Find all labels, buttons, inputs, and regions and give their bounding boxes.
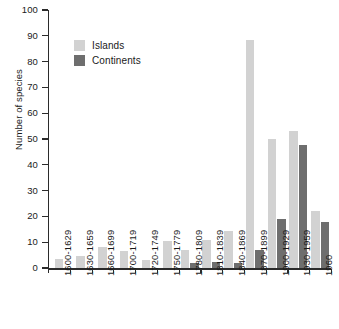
bar-islands bbox=[55, 259, 64, 268]
x-tick bbox=[287, 269, 288, 273]
x-tick bbox=[157, 269, 158, 273]
y-tick-label: 40 bbox=[0, 159, 38, 170]
y-tick-label: 30 bbox=[0, 185, 38, 196]
x-tick bbox=[200, 269, 201, 273]
x-tick bbox=[244, 269, 245, 273]
x-tick-label: 1750-1779 bbox=[172, 230, 182, 276]
x-tick bbox=[222, 269, 223, 273]
bar-islands bbox=[311, 211, 320, 268]
bar-islands bbox=[163, 241, 172, 268]
x-tick-label: 1870-1899 bbox=[259, 230, 269, 276]
bar-chart: Number of species 0102030405060708090100… bbox=[0, 0, 339, 329]
bar-islands bbox=[246, 40, 255, 268]
x-tick-label: 1930-1959 bbox=[302, 230, 312, 276]
x-tick bbox=[48, 269, 49, 273]
x-tick bbox=[113, 269, 114, 273]
bar-islands bbox=[76, 256, 85, 268]
y-tick-label: 80 bbox=[0, 56, 38, 67]
x-tick bbox=[135, 269, 136, 273]
x-tick-label: 1630-1659 bbox=[85, 230, 95, 276]
x-tick bbox=[309, 269, 310, 273]
chart-legend: Islands Continents bbox=[74, 38, 141, 68]
legend-label-islands: Islands bbox=[92, 40, 124, 51]
x-tick-label: 1810-1839 bbox=[215, 230, 225, 276]
x-tick bbox=[70, 269, 71, 273]
x-tick-label: 1900-1929 bbox=[281, 230, 291, 276]
x-tick-label: 1720-1749 bbox=[150, 230, 160, 276]
legend-swatch-islands bbox=[74, 40, 85, 51]
legend-item-islands: Islands bbox=[74, 38, 141, 52]
y-tick-label: 50 bbox=[0, 133, 38, 144]
y-tick-label: 100 bbox=[0, 4, 38, 15]
y-tick-label: 70 bbox=[0, 81, 38, 92]
x-tick bbox=[92, 269, 93, 273]
legend-label-continents: Continents bbox=[92, 55, 141, 66]
legend-item-continents: Continents bbox=[74, 53, 141, 67]
x-tick-label: 1840-1869 bbox=[237, 230, 247, 276]
y-tick-label: 60 bbox=[0, 107, 38, 118]
y-tick-label: 10 bbox=[0, 236, 38, 247]
bar-islands bbox=[224, 231, 233, 268]
x-tick-label: 1960 bbox=[324, 255, 334, 276]
x-tick-label: 1660-1699 bbox=[106, 230, 116, 276]
x-tick-label: 1780-1809 bbox=[194, 230, 204, 276]
y-tick-label: 20 bbox=[0, 210, 38, 221]
x-tick bbox=[331, 269, 332, 273]
x-tick-label: 1600-1629 bbox=[63, 230, 73, 276]
x-tick-label: 1700-1719 bbox=[128, 230, 138, 276]
legend-swatch-continents bbox=[74, 55, 85, 66]
y-tick-label: 0 bbox=[0, 262, 38, 273]
bar-islands bbox=[142, 260, 151, 268]
y-tick-label: 90 bbox=[0, 30, 38, 41]
x-tick bbox=[266, 269, 267, 273]
x-tick bbox=[179, 269, 180, 273]
